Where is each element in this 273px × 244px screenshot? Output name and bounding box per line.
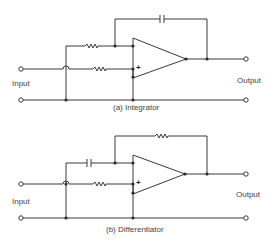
ground-terminal [244, 98, 248, 102]
differentiator-plus-sign: + [136, 179, 141, 187]
integrator-input-label: Input [12, 80, 30, 88]
differentiator-output-label: Output [236, 191, 260, 199]
resistor-icon [93, 182, 106, 186]
integrator-plus-sign: + [136, 64, 141, 72]
resistor-icon [85, 44, 98, 48]
differentiator-input-label: Input [12, 198, 30, 206]
input-terminal [19, 182, 23, 186]
integrator-output-label: Output [237, 77, 261, 85]
output-terminal [244, 172, 248, 176]
ground-terminal [244, 216, 248, 220]
op-amp-icon [133, 155, 185, 194]
resistor-icon [155, 134, 168, 138]
resistor-icon [93, 67, 106, 71]
differentiator-caption: (b) Differentiator [106, 226, 164, 234]
circuit-diagram [0, 0, 273, 244]
integrator-caption: (a) Integrator [113, 104, 159, 112]
ground-terminal [19, 216, 23, 220]
op-amp-icon [133, 38, 186, 78]
input-terminal [19, 67, 23, 71]
ground-terminal [19, 98, 23, 102]
output-terminal [244, 57, 248, 61]
differentiator-circuit [19, 134, 248, 220]
integrator-circuit [19, 15, 248, 102]
